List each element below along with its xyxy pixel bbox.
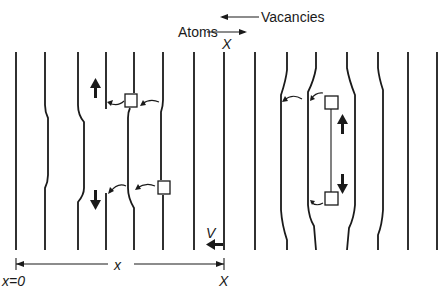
legend: Vacancies Atoms X <box>178 9 325 52</box>
distance-dimension: x x=0 X <box>1 257 229 289</box>
lattice-plane-10 <box>281 52 287 250</box>
vacancy-flow-arrowhead-icon <box>220 14 228 20</box>
down-arrow-icon <box>337 174 348 194</box>
lattice-plane-3 <box>78 52 84 250</box>
dimension-arrowhead-icon <box>216 261 224 267</box>
lattice-plane-2 <box>45 52 48 250</box>
right-lattice-planes <box>281 52 437 250</box>
vacancy-diffusion-diagram: Vacancies Atoms X <box>0 0 446 294</box>
jump-arrowhead-icon <box>282 96 288 102</box>
atom-flow-arrowhead-icon <box>239 29 247 35</box>
origin-label: x=0 <box>1 273 25 289</box>
left-lattice-planes: V <box>16 52 255 250</box>
lattice-plane-11 <box>308 52 316 250</box>
flux-symbol-label: X <box>221 36 232 52</box>
distance-label: x <box>113 257 122 273</box>
down-arrow-icon <box>90 190 101 210</box>
up-arrow-icon <box>90 78 101 98</box>
end-label: X <box>218 273 229 289</box>
jump-arrowhead-icon <box>140 100 146 106</box>
dimension-arrowhead-icon <box>16 261 24 267</box>
vacancy-square <box>325 192 338 205</box>
lattice-plane-5-lower <box>128 108 134 250</box>
lattice-plane-13 <box>378 52 383 250</box>
velocity-label: V <box>206 225 217 241</box>
lattice-plane-6-upper <box>161 52 163 180</box>
vacancy-square <box>125 94 137 107</box>
jump-arrowhead-icon <box>107 100 113 106</box>
jump-arrowhead-icon <box>135 184 141 190</box>
up-arrow-icon <box>337 114 348 134</box>
vacancy-square <box>158 181 170 194</box>
lattice-plane-12 <box>347 52 355 250</box>
vacancy-square <box>325 96 338 109</box>
vacancies-label: Vacancies <box>261 9 325 25</box>
